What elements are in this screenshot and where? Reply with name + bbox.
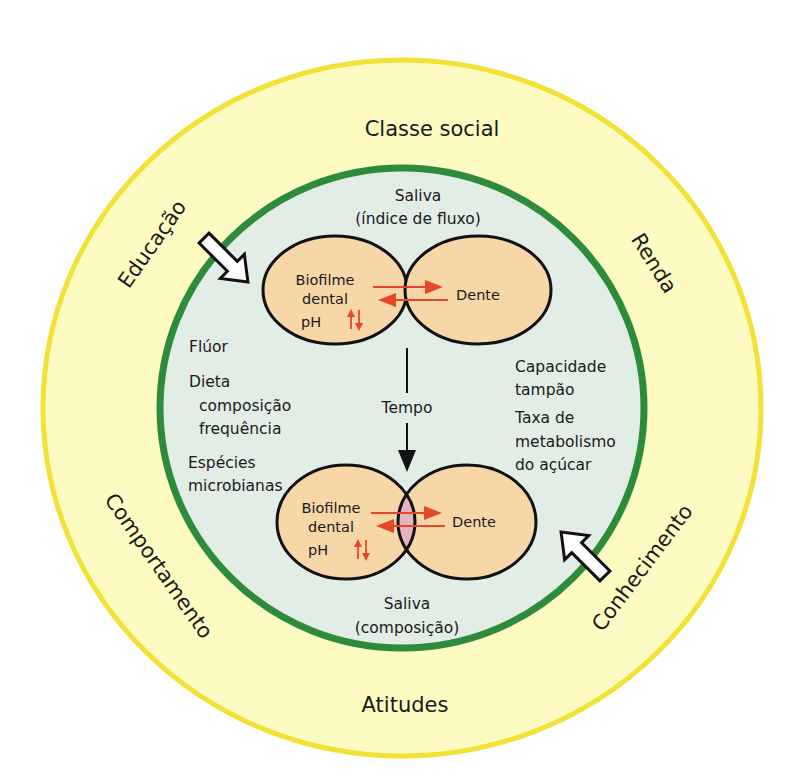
label-especies: Espécies: [188, 454, 256, 472]
label-atitudes: Atitudes: [362, 693, 449, 717]
label-dente-bottom: Dente: [452, 514, 496, 530]
label-classe-social: Classe social: [365, 117, 500, 141]
label-fluor: Flúor: [189, 338, 229, 356]
label-tampao: tampão: [515, 381, 575, 399]
label-biofilme-bottom: Biofilme: [301, 500, 360, 516]
label-ph-top: pH: [301, 314, 321, 330]
label-ph-bottom: pH: [308, 542, 328, 558]
caries-factors-diagram: Classe social Atitudes Educação Renda Co…: [0, 0, 796, 781]
label-capacidade: Capacidade: [515, 358, 606, 376]
label-acucar: do açúcar: [515, 456, 592, 474]
label-dieta-frequencia: frequência: [199, 420, 281, 438]
label-dieta-composicao: composição: [199, 397, 291, 415]
label-dieta: Dieta: [189, 373, 230, 391]
label-dente-top: Dente: [456, 287, 500, 303]
label-dental-bottom: dental: [308, 519, 354, 535]
label-biofilme-top: Biofilme: [295, 272, 354, 288]
label-dental-top: dental: [302, 291, 348, 307]
label-metabolismo: metabolismo: [515, 433, 616, 451]
label-microbianas: microbianas: [188, 477, 282, 495]
label-saliva-bottom-sub: (composição): [355, 619, 459, 637]
label-saliva-bottom: Saliva: [384, 595, 431, 613]
label-saliva-top-sub: (índice de fluxo): [355, 210, 480, 228]
label-tempo: Tempo: [381, 399, 433, 417]
label-saliva-top: Saliva: [395, 187, 442, 205]
ellipse-biofilme-top: [263, 236, 407, 344]
label-taxa-de: Taxa de: [514, 409, 574, 427]
